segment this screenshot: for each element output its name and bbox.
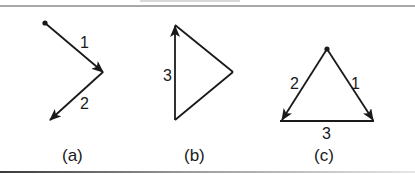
- panel-b: 3 (b): [163, 25, 233, 165]
- edge-arrow-2: [50, 72, 103, 120]
- edge-label-1: 1: [351, 75, 360, 92]
- bottom-rule: [0, 171, 415, 173]
- edge-line-bottom: [175, 72, 233, 120]
- edge-label-3: 3: [322, 125, 331, 142]
- vector-diagram-figure: 1 2 (a) 3 (b) 1 2 3 (c): [0, 0, 415, 174]
- edge-line-top: [175, 25, 233, 72]
- edge-label-2: 2: [290, 75, 299, 92]
- edge-arrow-1: [327, 49, 373, 120]
- edge-arrow-2: [282, 49, 327, 120]
- panel-a: 1 2 (a): [42, 20, 103, 165]
- caption-b: (b): [184, 146, 205, 165]
- edge-label-3: 3: [163, 67, 172, 84]
- caption-c: (c): [314, 146, 334, 165]
- panel-c: 1 2 3 (c): [280, 46, 374, 165]
- caption-a: (a): [62, 146, 83, 165]
- edge-arrow-1: [45, 23, 103, 72]
- edge-label-1: 1: [80, 34, 89, 51]
- edge-label-2: 2: [80, 95, 89, 112]
- clipped-text-fragment: [140, 0, 240, 2]
